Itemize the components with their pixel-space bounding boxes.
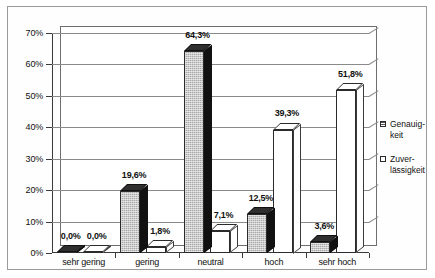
x-tick [306,253,307,258]
data-label: 12,5% [249,193,274,203]
y-tick-label: 10% [26,217,43,227]
bar-sehr-gering-genauigkeit [57,252,77,254]
legend-label-genauigkeit-line2: keit [390,130,403,140]
y-tick [46,64,52,65]
bar-front-face [83,252,103,254]
x-category-label-neutral: neutral [197,257,223,267]
legend-item-zuverlaessigkeit: Zuver-lässigkeit [380,154,435,175]
bar-hoch-genauigkeit [247,214,267,253]
x-category-label-sehr-gering: sehr gering [62,257,105,267]
x-category-label-gering: gering [135,257,159,267]
data-label: 19,6% [122,170,147,180]
y-tick [46,127,52,128]
y-tick-label: 40% [26,122,43,132]
x-tick [242,253,243,258]
bar-neutral-zuverlässigkeit [210,231,230,253]
bar-front-face [184,51,204,253]
data-label: 64,3% [185,30,210,40]
gridline [52,33,369,34]
bar-front-face [273,130,293,254]
bar-gering-zuverlässigkeit [146,247,166,253]
legend-swatch-zuverlaessigkeit-icon [380,156,386,162]
y-tick [46,96,52,97]
bar-side-face [267,207,275,253]
legend-item-genauigkeit: Genauig-keit [380,119,435,140]
x-tick [179,253,180,258]
bar-side-face [204,45,212,253]
data-label: 0,0% [87,231,107,241]
y-tick-label: 60% [26,59,43,69]
data-label: 1,8% [150,226,170,236]
y-tick-label: 70% [26,28,43,38]
legend-label-zuverlaessigkeit: Zuver-lässigkeit [390,154,425,175]
bar-front-face [120,191,140,253]
bar-sehr-gering-zuverlässigkeit [83,252,103,254]
y-tick-label: 30% [26,154,43,164]
data-label: 7,1% [214,210,234,220]
legend-label-zuverlaessigkeit-line1: Zuver- [390,154,415,164]
y-tick [46,190,52,191]
data-label: 3,6% [314,221,334,231]
bar-hoch-zuverlässigkeit [273,130,293,254]
bar-front-face [247,214,267,253]
bar-gering-genauigkeit [120,191,140,253]
figure-frame: 0%10%20%30%40%50%60%70% 0,0%0,0%19,6%1,8… [7,6,427,270]
bar-side-face [140,185,148,253]
y-tick [46,222,52,223]
legend-swatch-genauigkeit-icon [380,121,386,127]
y-tick-label: 50% [26,91,43,101]
x-tick [115,253,116,258]
bar-neutral-genauigkeit [184,51,204,253]
y-tick-label: 20% [26,185,43,195]
chart-figure: 0%10%20%30%40%50%60%70% 0,0%0,0%19,6%1,8… [0,0,435,278]
bar-front-face [57,252,77,254]
bar-front-face [336,90,356,253]
bar-sehr-hoch-zuverlässigkeit [336,90,356,253]
bar-front-face [310,242,330,253]
chart-legend: Genauig-keit Zuver-lässigkeit [380,119,435,190]
data-label: 0,0% [61,231,81,241]
y-tick [46,159,52,160]
x-tick [369,253,370,258]
legend-label-genauigkeit-line1: Genauig- [390,119,425,129]
bar-front-face [146,247,166,253]
plot-area: 0%10%20%30%40%50%60%70% 0,0%0,0%19,6%1,8… [52,33,369,253]
bar-side-face [356,84,364,253]
bar-side-face [293,123,301,253]
data-label: 51,8% [338,69,363,79]
bar-sehr-hoch-genauigkeit [310,242,330,253]
x-category-label-sehr-hoch: sehr hoch [318,257,356,267]
y-tick [46,253,52,254]
legend-label-zuverlaessigkeit-line2: lässigkeit [390,165,425,175]
y-tick [46,33,52,34]
bar-front-face [210,231,230,253]
y-tick-label: 0% [30,248,43,258]
x-category-label-hoch: hoch [265,257,284,267]
data-label: 39,3% [275,108,300,118]
legend-label-genauigkeit: Genauig-keit [390,119,425,140]
